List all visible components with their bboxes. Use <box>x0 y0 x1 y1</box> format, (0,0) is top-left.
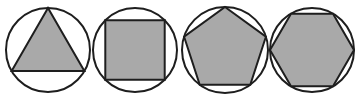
inscribed-square <box>105 20 164 79</box>
figure-triangle <box>6 8 90 92</box>
inscribed-polygons-diagram <box>0 0 359 100</box>
inscribed-hexagon <box>270 14 354 87</box>
figure-pentagon <box>182 7 268 93</box>
figure-square <box>93 8 177 92</box>
figure-hexagon <box>270 8 354 92</box>
